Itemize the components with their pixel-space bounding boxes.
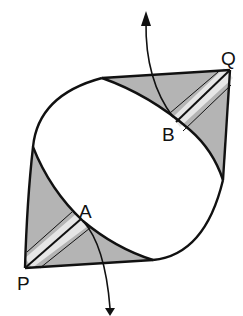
curve-upper-left — [33, 78, 102, 147]
label-a: A — [79, 201, 92, 222]
label-b: B — [162, 124, 175, 145]
arrowhead-up-icon — [141, 11, 151, 26]
label-q: Q — [221, 48, 236, 69]
label-p: P — [17, 273, 30, 294]
arrowhead-down-icon — [105, 308, 115, 316]
diagram-canvas: Q B A P — [0, 0, 243, 316]
curve-lower-right — [153, 180, 223, 260]
